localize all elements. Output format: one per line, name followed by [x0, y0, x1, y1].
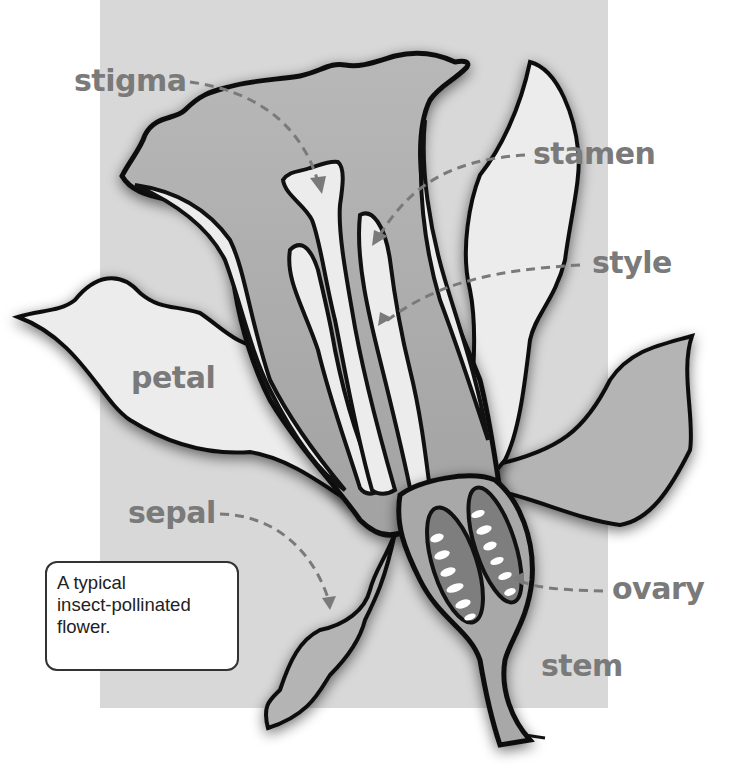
- caption-line-1: A typical: [57, 572, 227, 594]
- label-petal: petal: [131, 363, 215, 393]
- label-stem: stem: [541, 651, 623, 681]
- label-style: style: [592, 248, 672, 278]
- caption-box: A typical insect-pollinated flower.: [45, 561, 239, 671]
- label-stamen: stamen: [533, 139, 655, 169]
- label-ovary: ovary: [612, 574, 704, 604]
- caption-line-2: insect-pollinated: [57, 594, 227, 616]
- left-sepal: [266, 533, 395, 728]
- label-stigma: stigma: [74, 66, 186, 96]
- label-sepal: sepal: [128, 498, 216, 528]
- caption-line-3: flower.: [57, 616, 227, 638]
